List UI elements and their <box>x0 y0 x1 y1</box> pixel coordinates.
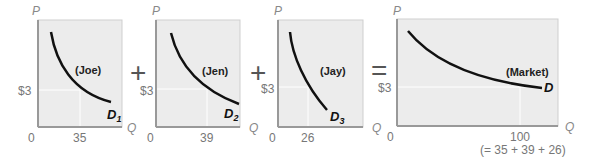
x-axis-label: Q <box>249 121 258 135</box>
panel-title: (Jen) <box>202 65 229 77</box>
quantity-sum-note: (= 35 + 39 + 26) <box>480 143 566 157</box>
curve-label: D <box>544 80 554 95</box>
panel-jay: P Q 0 $3 26 (Jay) D3 <box>261 4 381 145</box>
price-tick-label: $3 <box>378 81 392 95</box>
price-tick-label: $3 <box>140 84 154 98</box>
quantity-tick-label: 26 <box>301 131 315 145</box>
curve-subscript: 3 <box>339 116 344 126</box>
panel-title: (Joe) <box>75 64 102 76</box>
origin-label: 0 <box>269 131 276 145</box>
y-axis-label: P <box>152 4 160 18</box>
quantity-tick-label: 39 <box>200 131 214 145</box>
quantity-tick-label: 35 <box>73 131 87 145</box>
panel-title: (Jay) <box>320 65 346 77</box>
market-demand-figure: P Q 0 $3 35 (Joe) D1 + P Q 0 $3 39 (Jen)… <box>0 0 591 162</box>
curve-subscript: 1 <box>116 114 121 124</box>
origin-label: 0 <box>147 131 154 145</box>
quantity-tick-label: 100 <box>510 130 530 144</box>
panel-title: (Market) <box>506 66 549 78</box>
price-tick-label: $3 <box>261 82 275 96</box>
curve-letter: D <box>544 80 554 95</box>
x-axis-label: Q <box>565 120 574 134</box>
y-axis-label: P <box>393 4 401 18</box>
curve-subscript: 2 <box>232 113 238 123</box>
y-axis-label: P <box>274 4 282 18</box>
x-axis-label: Q <box>372 121 381 135</box>
origin-label: 0 <box>387 130 394 144</box>
panel-joe: P Q 0 $3 35 (Joe) D1 <box>18 4 136 145</box>
panel-jen: P Q 0 $3 39 (Jen) D2 <box>140 4 258 145</box>
price-tick-label: $3 <box>18 84 32 98</box>
y-axis-label: P <box>32 4 40 18</box>
origin-label: 0 <box>28 131 35 145</box>
panel-market: P Q 0 $3 100 (= 35 + 39 + 26) (Market) D <box>378 4 574 157</box>
x-axis-label: Q <box>127 121 136 135</box>
